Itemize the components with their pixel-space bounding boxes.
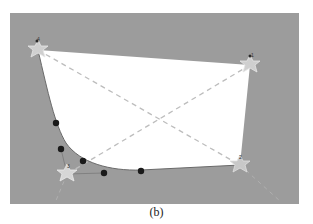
control-point[interactable] [53,120,59,126]
corner-label-1: 1 [251,52,254,58]
control-point[interactable] [80,158,86,164]
corner-label-2: 2 [239,154,242,160]
figure-caption: (b) [0,205,313,220]
control-point[interactable] [58,146,64,152]
corner-label-3: 3 [67,163,70,169]
control-point[interactable] [101,170,107,176]
corner-label-4: 4 [37,36,40,42]
figure-panel: 4 1 3 2 [10,13,299,204]
control-point[interactable] [138,168,144,174]
figure-canvas: 4 1 3 2 [10,13,299,204]
